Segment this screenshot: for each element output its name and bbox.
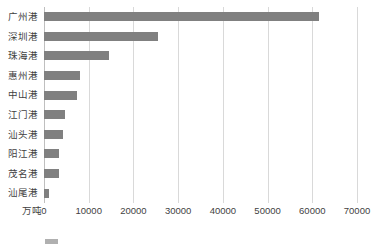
bar <box>44 71 80 80</box>
y-axis-label: 汕头港 <box>8 125 38 145</box>
bar-series <box>44 7 357 203</box>
y-axis-label: 阳江港 <box>8 144 38 164</box>
bar-row <box>44 7 357 27</box>
x-axis-tick: 50000 <box>254 205 280 216</box>
bar <box>44 130 63 139</box>
axis-unit-label: 万吨 <box>2 203 42 217</box>
y-axis-label: 中山港 <box>8 85 38 105</box>
bar-row <box>44 27 357 47</box>
y-axis-label: 江门港 <box>8 105 38 125</box>
x-axis-tick-labels: 010000200003000040000500006000070000 <box>44 205 357 221</box>
bar-row <box>44 85 357 105</box>
bar <box>44 32 158 41</box>
bar <box>44 12 319 21</box>
x-axis-tick: 60000 <box>299 205 325 216</box>
bar-row <box>44 105 357 125</box>
bar-row <box>44 66 357 86</box>
bar-row <box>44 183 357 203</box>
x-axis-tick: 70000 <box>344 205 370 216</box>
bar-row <box>44 164 357 184</box>
x-axis-tick: 40000 <box>210 205 236 216</box>
y-axis-label: 深圳港 <box>8 27 38 47</box>
bar <box>44 51 109 60</box>
y-axis-label: 广州港 <box>8 7 38 27</box>
plot-area <box>44 7 357 203</box>
y-axis-label: 珠海港 <box>8 46 38 66</box>
x-axis-tick: 30000 <box>165 205 191 216</box>
bar-row <box>44 46 357 66</box>
x-axis-tick: 20000 <box>120 205 146 216</box>
x-axis-tick: 0 <box>41 205 46 216</box>
y-axis-label: 茂名港 <box>8 164 38 184</box>
bar <box>44 189 49 198</box>
bar <box>44 169 59 178</box>
bar <box>44 110 65 119</box>
gridline-70000 <box>357 7 358 203</box>
y-axis-label: 汕尾港 <box>8 183 38 203</box>
bar <box>44 91 77 100</box>
bar-row <box>44 125 357 145</box>
chart-caption <box>45 238 345 250</box>
y-axis-category-labels: 广州港深圳港珠海港惠州港中山港江门港汕头港阳江港茂名港汕尾港 <box>0 7 41 203</box>
y-axis-label: 惠州港 <box>8 66 38 86</box>
bar <box>44 149 59 158</box>
x-axis-tick: 10000 <box>75 205 101 216</box>
bar-chart: 广州港深圳港珠海港惠州港中山港江门港汕头港阳江港茂名港汕尾港 万吨 010000… <box>0 0 390 250</box>
bar-row <box>44 144 357 164</box>
caption-swatch-icon <box>45 239 58 244</box>
